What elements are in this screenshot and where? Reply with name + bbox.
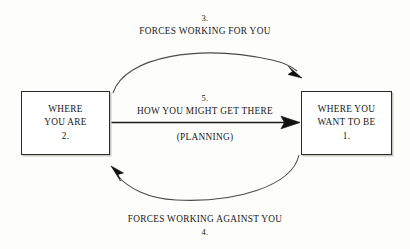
forces-against-arrowhead xyxy=(111,166,124,181)
edge-number-forces-for: 3. xyxy=(105,12,305,25)
edge-text-planning: HOW YOU MIGHT GET THERE xyxy=(110,105,300,118)
node-current-state-line-1: WHERE xyxy=(48,103,82,116)
forces-for-arrowhead xyxy=(288,67,302,79)
edge-number-planning: 5. xyxy=(110,92,300,105)
edge-label-forces-for: 3. FORCES WORKING FOR YOU xyxy=(105,12,305,38)
diagram-canvas: 3. FORCES WORKING FOR YOU WHERE YOU ARE … xyxy=(0,0,410,249)
node-current-state-number: 2. xyxy=(62,130,69,143)
edge-label-forces-against: FORCES WORKING AGAINST YOU 4. xyxy=(100,213,310,239)
node-goal-state-line-2: WANT TO BE xyxy=(318,116,376,129)
forces-for-curve xyxy=(113,53,297,93)
node-goal-state[interactable]: WHERE YOU WANT TO BE 1. xyxy=(301,91,392,155)
node-goal-state-number: 1. xyxy=(343,130,350,143)
edge-text-forces-for: FORCES WORKING FOR YOU xyxy=(105,25,305,38)
forces-against-curve xyxy=(118,155,299,200)
node-current-state[interactable]: WHERE YOU ARE 2. xyxy=(21,91,110,155)
node-current-state-line-2: YOU ARE xyxy=(44,116,86,129)
node-goal-state-line-1: WHERE YOU xyxy=(318,103,375,116)
edge-label-planning: 5. HOW YOU MIGHT GET THERE xyxy=(110,92,300,118)
edge-text-forces-against: FORCES WORKING AGAINST YOU xyxy=(100,213,310,226)
edge-number-forces-against: 4. xyxy=(100,226,310,239)
edge-subtext-planning: (PLANNING) xyxy=(110,131,300,144)
